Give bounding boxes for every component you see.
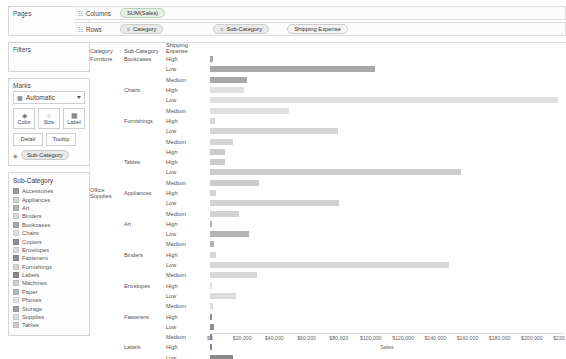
bar-mark[interactable] xyxy=(210,56,213,62)
bar-mark[interactable] xyxy=(210,252,216,258)
table-row[interactable]: Low xyxy=(88,95,566,105)
tooltip-button-label: Tooltip xyxy=(53,136,70,143)
bar-mark[interactable] xyxy=(210,108,289,114)
bar-mark[interactable] xyxy=(210,87,244,93)
bar-mark[interactable] xyxy=(210,293,236,299)
cell-shipping-expense: Low xyxy=(166,262,210,268)
bar-cell xyxy=(210,105,566,115)
legend-item-label: Chairs xyxy=(22,230,39,236)
table-row[interactable]: Low xyxy=(88,167,566,177)
bar-mark[interactable] xyxy=(210,314,212,320)
legend-swatch xyxy=(13,230,19,236)
table-row[interactable]: Low xyxy=(88,322,566,332)
tooltip-button[interactable]: Tooltip xyxy=(46,133,76,146)
bar-mark[interactable] xyxy=(210,159,225,165)
bar-cell xyxy=(210,188,566,198)
bar-mark[interactable] xyxy=(210,128,338,134)
cell-shipping-expense: Low xyxy=(166,200,210,206)
bar-mark[interactable] xyxy=(210,324,214,330)
cell-shipping-expense: Medium xyxy=(166,108,210,114)
legend-swatch xyxy=(13,322,19,328)
cell-shipping-expense: High xyxy=(166,252,210,258)
table-row[interactable]: FastenersHigh xyxy=(88,311,566,321)
axis-tick-label: $0 xyxy=(207,335,213,341)
bar-mark[interactable] xyxy=(210,200,339,206)
table-row[interactable]: EnvelopesHigh xyxy=(88,281,566,291)
table-row[interactable]: Medium xyxy=(88,75,566,85)
chart-rows-container: FurnitureBookcasesHighLowMediumChairsHig… xyxy=(88,54,566,359)
table-row[interactable]: Medium xyxy=(88,105,566,115)
bar-mark[interactable] xyxy=(210,180,259,186)
bar-cell xyxy=(210,157,566,167)
table-row[interactable]: OfficeSuppliesAppliancesHigh xyxy=(88,188,566,198)
legend-swatch xyxy=(13,264,19,270)
table-row[interactable]: Medium xyxy=(88,178,566,188)
bar-cell xyxy=(210,147,566,157)
bar-mark[interactable] xyxy=(210,221,212,227)
x-axis: $0$20,000$40,000$60,000$80,000$100,000$1… xyxy=(210,333,564,359)
bar-mark[interactable] xyxy=(210,272,257,278)
bar-mark[interactable] xyxy=(210,231,249,237)
bar-mark[interactable] xyxy=(210,77,247,83)
bar-mark[interactable] xyxy=(210,211,239,217)
size-button[interactable]: ○ Size xyxy=(38,108,60,129)
cell-sub-category: Envelopes xyxy=(124,283,166,289)
bar-cell xyxy=(210,75,566,85)
columns-shelf-name: ☷ Columns xyxy=(74,10,120,17)
table-row[interactable]: Low xyxy=(88,260,566,270)
pill-shipping-expense[interactable]: Shipping Expense xyxy=(287,24,348,34)
cell-shipping-expense: Low xyxy=(166,293,210,299)
table-row[interactable]: TablesHigh xyxy=(88,157,566,167)
columns-shelf[interactable]: ☷ Columns SUM(Sales) xyxy=(74,6,566,20)
table-row[interactable]: High xyxy=(88,147,566,157)
legend-swatch xyxy=(13,247,19,253)
bar-mark[interactable] xyxy=(210,190,216,196)
bar-mark[interactable] xyxy=(210,169,461,175)
view-pane: Category Sub-Category Shipping Expense F… xyxy=(88,42,566,359)
pill-sub-category[interactable]: ≡ Sub-Category xyxy=(213,24,269,34)
table-row[interactable]: Medium xyxy=(88,136,566,146)
pill-sub-category-label: Sub-Category xyxy=(226,26,262,32)
pill-sum-sales[interactable]: SUM(Sales) xyxy=(120,8,165,18)
table-row[interactable]: Medium xyxy=(88,301,566,311)
cell-shipping-expense: Low xyxy=(166,169,210,175)
cell-shipping-expense: Low xyxy=(166,66,210,72)
bar-mark[interactable] xyxy=(210,283,212,289)
bar-mark[interactable] xyxy=(210,97,558,103)
bar-mark[interactable] xyxy=(210,303,213,309)
table-row[interactable]: Medium xyxy=(88,270,566,280)
color-button[interactable]: ◈ Color xyxy=(13,108,35,129)
pill-category-label: Category xyxy=(133,26,157,32)
cell-sub-category: Bookcases xyxy=(124,56,166,62)
bar-mark[interactable] xyxy=(210,139,233,145)
legend-item-label: Paper xyxy=(22,289,37,295)
table-row[interactable]: FurnishingsHigh xyxy=(88,116,566,126)
bar-mark[interactable] xyxy=(210,118,215,124)
cell-shipping-expense: Medium xyxy=(166,77,210,83)
rows-shelf[interactable]: ☷ Rows ≡ Category ≡ Sub-Category Shippin… xyxy=(74,22,566,36)
table-row[interactable]: Low xyxy=(88,198,566,208)
table-row[interactable]: Medium xyxy=(88,239,566,249)
marks-color-pill[interactable]: Sub-Category xyxy=(21,150,69,160)
detail-button[interactable]: Detail xyxy=(13,133,43,146)
table-row[interactable]: FurnitureBookcasesHigh xyxy=(88,54,566,64)
table-row[interactable]: Low xyxy=(88,126,566,136)
grid-icon: ☷ xyxy=(78,26,83,33)
axis-tick-label: $40,000 xyxy=(265,335,284,341)
table-row[interactable]: Low xyxy=(88,291,566,301)
table-row[interactable]: Low xyxy=(88,64,566,74)
legend-swatch xyxy=(13,314,19,320)
pill-category[interactable]: ≡ Category xyxy=(120,24,163,34)
bar-mark[interactable] xyxy=(210,66,375,72)
bar-mark[interactable] xyxy=(210,262,449,268)
table-row[interactable]: ArtHigh xyxy=(88,219,566,229)
size-icon: ○ xyxy=(47,112,51,119)
table-row[interactable]: Low xyxy=(88,229,566,239)
bar-mark[interactable] xyxy=(210,241,214,247)
color-button-label: Color xyxy=(17,119,30,126)
bar-mark[interactable] xyxy=(210,149,225,155)
table-row[interactable]: BindersHigh xyxy=(88,250,566,260)
size-button-label: Size xyxy=(44,119,55,126)
table-row[interactable]: ChairsHigh xyxy=(88,85,566,95)
table-row[interactable]: Medium xyxy=(88,208,566,218)
